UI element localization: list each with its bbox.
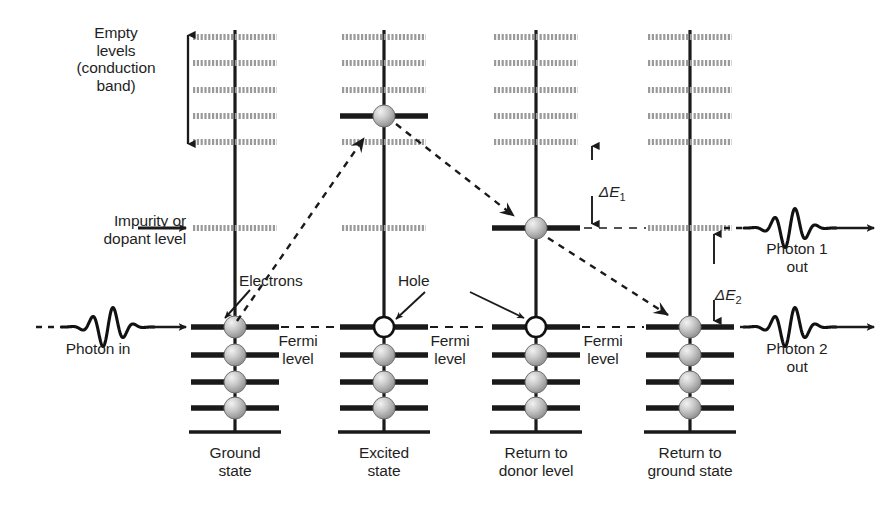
empty-levels-label: Empty levels (conduction band) (46, 24, 186, 94)
conduction-level-excited-state-0 (342, 35, 426, 39)
column-caption-return-ground: Return to ground state (615, 444, 765, 479)
electron-impurity-return-donor (525, 217, 547, 239)
delta-e2-label: ΔE2 (698, 268, 741, 327)
impurity-level-ground-state (193, 226, 277, 230)
electron-valence-excited-state-3 (373, 397, 395, 419)
electron-valence-excited-state-1 (373, 344, 395, 366)
conduction-level-return-ground-0 (648, 35, 732, 39)
fermi-level-label-2: Fermi level (407, 332, 493, 367)
transition-arrow-recombination (548, 238, 668, 315)
electron-valence-return-ground-1 (679, 344, 701, 366)
conduction-level-return-ground-3 (648, 114, 732, 118)
electron-fermi-ground-state (224, 316, 246, 338)
delta-e1-label: ΔE1 (582, 165, 625, 224)
photon-in-label: Photon in (32, 340, 164, 358)
conduction-level-ground-state-1 (193, 61, 277, 65)
column-caption-excited-state: Excited state (309, 444, 459, 479)
electron-valence-return-donor-1 (525, 344, 547, 366)
electron-valence-ground-state-3 (224, 397, 246, 419)
column-caption-ground-state: Ground state (160, 444, 310, 479)
photon-2-out-label: Photon 2 out (738, 340, 856, 375)
conduction-level-excited-state-2 (342, 88, 426, 92)
impurity-level-label: Impurity or dopant level (10, 212, 186, 247)
transition-arrow-absorption (237, 138, 364, 321)
photon-1-out-label: Photon 1 out (738, 240, 856, 275)
impurity-level-excited-state (342, 226, 426, 230)
conduction-level-return-ground-2 (648, 88, 732, 92)
delta-e2-symbol: Δ (715, 286, 725, 303)
delta-e2-variable: E (725, 286, 735, 303)
hole-pointer-arrow-2 (470, 292, 524, 318)
conduction-level-ground-state-4 (193, 140, 277, 144)
delta-e2-subscript: 2 (735, 294, 741, 306)
conduction-level-excited-state-4 (342, 140, 426, 144)
electron-valence-ground-state-1 (224, 344, 246, 366)
conduction-level-return-donor-1 (494, 61, 578, 65)
electron-valence-return-ground-2 (679, 371, 701, 393)
electron-valence-return-donor-3 (525, 397, 547, 419)
conduction-level-excited-state-1 (342, 61, 426, 65)
hole-pointer-arrow-1 (396, 292, 425, 319)
conduction-level-ground-state-0 (193, 35, 277, 39)
conduction-level-ground-state-3 (193, 114, 277, 118)
hole-fermi-return-donor (526, 317, 546, 337)
conduction-level-return-ground-1 (648, 61, 732, 65)
delta-e1-subscript: 1 (619, 191, 625, 203)
delta-e1-variable: E (609, 183, 619, 200)
transition-arrow-relaxation (396, 124, 514, 216)
fermi-level-label-3: Fermi level (560, 332, 646, 367)
electrons-label: Electrons (239, 272, 303, 290)
electron-valence-return-donor-2 (525, 371, 547, 393)
hole-label: Hole (398, 272, 429, 290)
conduction-level-return-donor-4 (494, 140, 578, 144)
conduction-level-ground-state-2 (193, 88, 277, 92)
electron-valence-excited-state-2 (373, 371, 395, 393)
figure-canvas: Empty levels (conduction band) Impurity … (0, 0, 891, 507)
hole-fermi-excited-state (374, 317, 394, 337)
impurity-level-return-ground (648, 226, 732, 230)
column-caption-return-donor: Return to donor level (461, 444, 611, 479)
conduction-level-return-ground-4 (648, 140, 732, 144)
electron-valence-return-ground-3 (679, 397, 701, 419)
conduction-level-return-donor-3 (494, 114, 578, 118)
conduction-level-return-donor-0 (494, 35, 578, 39)
fermi-level-label-1: Fermi level (255, 332, 341, 367)
delta-e1-symbol: Δ (599, 183, 609, 200)
electron-valence-ground-state-2 (224, 371, 246, 393)
electrons-pointer-arrow (225, 290, 250, 318)
conduction-level-return-donor-2 (494, 88, 578, 92)
electron-conduction-excited-state (373, 105, 395, 127)
